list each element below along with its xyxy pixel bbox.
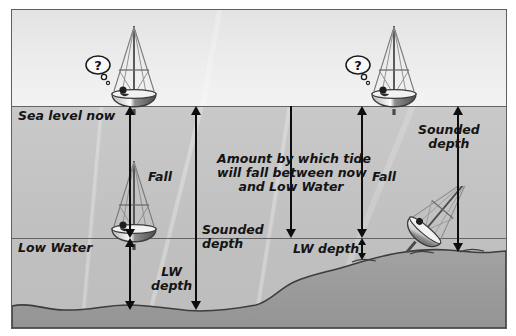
label-fall-right: Fall bbox=[372, 170, 396, 184]
sea-level-line bbox=[12, 106, 506, 107]
thought-bubble-text-right: ? bbox=[354, 58, 362, 73]
label-lw-depth-left: LW depth bbox=[151, 265, 192, 293]
diagram-frame: ? bbox=[11, 9, 507, 329]
label-sounded-depth-left: Sounded depth bbox=[202, 223, 264, 251]
label-fall-left: Fall bbox=[148, 170, 172, 184]
arrow-fall-left bbox=[124, 106, 136, 238]
arrow-lw-depth-left bbox=[124, 238, 136, 310]
diagram-canvas: ? bbox=[0, 0, 516, 336]
label-sea-level-now: Sea level now bbox=[18, 109, 115, 123]
boat-aground-right bbox=[394, 186, 502, 266]
label-amount-note: Amount by which tide will fall between n… bbox=[217, 152, 365, 194]
thought-bubble-icon-right: ? bbox=[343, 54, 373, 86]
label-lw-depth-right: LW depth bbox=[293, 242, 359, 256]
label-sounded-depth-right: Sounded depth bbox=[418, 123, 480, 151]
thought-bubble-text: ? bbox=[94, 58, 102, 73]
label-low-water: Low Water bbox=[18, 241, 92, 255]
thought-bubble-icon: ? bbox=[83, 54, 113, 86]
